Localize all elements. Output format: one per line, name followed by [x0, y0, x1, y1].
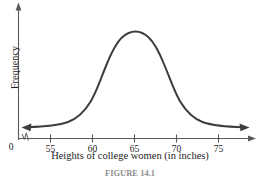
figure-caption: FIGURE 14.1 — [0, 169, 260, 176]
left-tail-arrow-icon — [22, 124, 32, 132]
right-tail-arrow-icon — [240, 124, 250, 132]
x-axis-arrow-icon — [248, 136, 256, 142]
bell-curve-path — [28, 32, 243, 128]
figure-container: 55 60 65 70 75 0 Frequency Heights of co… — [0, 0, 260, 176]
bell-curve-group — [22, 32, 250, 132]
y-axis-arrow-icon — [16, 3, 22, 11]
x-axis — [19, 136, 257, 142]
axis-break-icon — [22, 133, 28, 141]
x-axis-label: Heights of college women (in inches) — [0, 150, 260, 161]
y-axis-label: Frequency — [9, 28, 20, 108]
